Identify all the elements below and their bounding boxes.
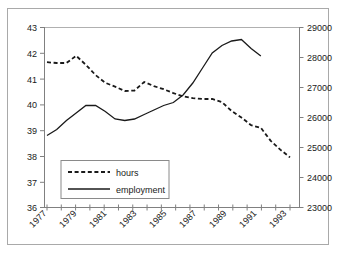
- right-tick-label: 26000: [307, 113, 332, 123]
- legend-label-employment: employment: [116, 185, 166, 195]
- x-tick-label: 1993: [267, 208, 288, 229]
- chart-figure: 43 42 41 40 39 38 37 36 29000 28000 2700…: [0, 0, 345, 264]
- x-tick-label: 1981: [87, 208, 108, 229]
- right-tick-label: 23000: [307, 203, 332, 213]
- series-line-employment: [47, 40, 261, 136]
- left-tick-label: 42: [27, 49, 37, 59]
- right-tick-label: 29000: [307, 23, 332, 33]
- x-tick-label: 1987: [177, 208, 198, 229]
- right-tick-label: 25000: [307, 143, 332, 153]
- left-tick-label: 38: [27, 152, 37, 162]
- x-tick-label: 1991: [237, 208, 258, 229]
- left-tick-label: 43: [27, 23, 37, 33]
- right-tick-label: 27000: [307, 83, 332, 93]
- legend-label-hours: hours: [116, 168, 139, 178]
- right-tick-label: 28000: [307, 53, 332, 63]
- x-tick-label: 1989: [207, 208, 228, 229]
- x-tick-label: 1979: [57, 208, 78, 229]
- right-axis-ticks: [300, 28, 304, 208]
- right-tick-label: 24000: [307, 173, 332, 183]
- left-tick-label: 40: [27, 100, 37, 110]
- x-axis-labels: 1977 1979 1981 1983 1985 1987 1989 1991 …: [27, 208, 288, 229]
- dual-axis-line-chart: 43 42 41 40 39 38 37 36 29000 28000 2700…: [0, 0, 345, 264]
- left-axis-ticks: [40, 28, 44, 208]
- left-tick-label: 41: [27, 75, 37, 85]
- x-tick-label: 1985: [147, 208, 168, 229]
- right-axis-labels: 29000 28000 27000 26000 25000 24000 2300…: [307, 23, 332, 213]
- left-tick-label: 36: [27, 203, 37, 213]
- x-tick-label: 1983: [117, 208, 138, 229]
- left-axis-labels: 43 42 41 40 39 38 37 36: [27, 23, 37, 213]
- left-tick-label: 39: [27, 126, 37, 136]
- chart-legend: hours employment: [61, 161, 169, 199]
- left-tick-label: 37: [27, 178, 37, 188]
